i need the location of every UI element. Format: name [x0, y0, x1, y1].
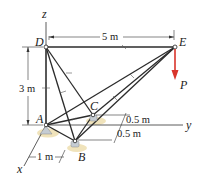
- point-label-c: C: [90, 99, 99, 113]
- point-label-e: E: [178, 35, 187, 49]
- load-arrow-p: [172, 49, 179, 80]
- member-dc: [46, 47, 93, 115]
- axis-label-z: z: [41, 7, 47, 21]
- joint-e: [173, 45, 177, 49]
- axis-label-y: y: [185, 118, 192, 132]
- joint-c: [91, 113, 95, 117]
- dimension-label-ab-x: 1 m: [37, 151, 53, 162]
- member-eb: [75, 47, 175, 141]
- space-truss-diagram: z y x D E A B C P 5 m 3 m 0.5 m 0.5 m 1 …: [0, 0, 200, 180]
- dim-arrow-top: [27, 47, 30, 52]
- dimension-label-offset-b: 0.5 m: [117, 128, 141, 139]
- member-ec: [93, 47, 175, 115]
- load-label-p: P: [179, 78, 188, 92]
- dim-arrow-bottom: [27, 120, 30, 125]
- dimension-label-ad: 3 m: [19, 83, 35, 94]
- joint-a: [44, 123, 48, 127]
- point-label-b: B: [78, 150, 86, 164]
- point-label-a: A: [35, 112, 44, 126]
- point-label-d: D: [34, 35, 44, 49]
- truss-members: [46, 47, 175, 141]
- dimension-label-de: 5 m: [102, 31, 118, 42]
- dim-arrow-left: [49, 36, 54, 39]
- axis-label-x: x: [16, 162, 23, 176]
- joint-b: [73, 139, 77, 143]
- dimension-label-offset-c: 0.5 m: [126, 114, 150, 125]
- member-ea: [46, 47, 175, 125]
- joint-d: [44, 45, 48, 49]
- dim-arrow-right: [169, 36, 174, 39]
